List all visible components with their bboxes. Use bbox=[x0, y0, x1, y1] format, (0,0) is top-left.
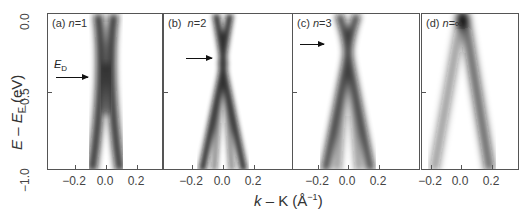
dirac-point-arrow bbox=[56, 77, 88, 78]
x-tick-label: 0.2 bbox=[245, 174, 262, 188]
band-map-c bbox=[293, 14, 420, 170]
x-tick bbox=[492, 165, 493, 169]
panel-a: (a) n=1 bbox=[47, 13, 163, 170]
x-tick-label: −0.2 bbox=[179, 174, 203, 188]
y-tick-label: −1.0 bbox=[18, 168, 32, 192]
band-map-b bbox=[164, 14, 293, 170]
x-tick-label: 0.0 bbox=[339, 174, 356, 188]
x-tick-label: −0.2 bbox=[62, 174, 86, 188]
x-tick-label: 0.0 bbox=[452, 174, 469, 188]
y-axis-label: E – EF (eV) bbox=[8, 75, 28, 150]
x-axis-label: k – K (Å−1) bbox=[254, 192, 323, 209]
x-tick-label: 0.2 bbox=[128, 174, 145, 188]
x-tick bbox=[106, 165, 107, 169]
y-tick bbox=[422, 92, 426, 93]
band-map-a bbox=[48, 14, 163, 170]
x-tick bbox=[223, 165, 224, 169]
x-tick-label: 0.0 bbox=[214, 174, 231, 188]
x-tick bbox=[431, 165, 432, 169]
x-tick bbox=[137, 165, 138, 169]
band-map-d bbox=[422, 14, 519, 170]
panel-label: (a) n=1 bbox=[52, 17, 87, 29]
panel-c: (c) n=3 bbox=[292, 13, 420, 170]
dirac-point-arrow bbox=[300, 44, 324, 45]
x-tick bbox=[192, 165, 193, 169]
x-tick-label: −0.2 bbox=[418, 174, 442, 188]
dirac-point-arrow bbox=[186, 58, 212, 59]
x-tick bbox=[348, 165, 349, 169]
dirac-point-label: ED bbox=[54, 58, 67, 73]
y-tick bbox=[293, 92, 297, 93]
x-tick-label: 0.0 bbox=[97, 174, 114, 188]
panel-label: (d) n=∞ bbox=[426, 17, 463, 29]
x-tick bbox=[461, 165, 462, 169]
panel-b: (b) n=2 bbox=[163, 13, 293, 170]
x-tick bbox=[318, 165, 319, 169]
panel-label: (b) n=2 bbox=[168, 17, 206, 29]
panel-d: (d) n=∞ bbox=[421, 13, 519, 170]
x-tick bbox=[75, 165, 76, 169]
x-tick-label: 0.2 bbox=[370, 174, 387, 188]
panel-label: (c) n=3 bbox=[297, 17, 332, 29]
x-tick bbox=[379, 165, 380, 169]
x-tick-label: 0.2 bbox=[483, 174, 500, 188]
y-tick bbox=[164, 92, 168, 93]
y-tick-label: 0.0 bbox=[18, 13, 32, 30]
y-tick-label: −0.5 bbox=[18, 88, 32, 112]
y-tick bbox=[48, 92, 52, 93]
x-tick bbox=[254, 165, 255, 169]
x-tick-label: −0.2 bbox=[305, 174, 329, 188]
